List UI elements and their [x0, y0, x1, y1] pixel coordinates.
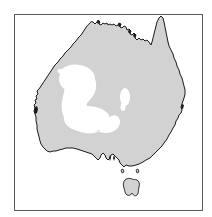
tasmania-shape: [123, 178, 139, 195]
map-frame: [14, 14, 203, 211]
central-east-gap-tip: [121, 103, 126, 111]
bass-strait-island-west-icon: [121, 169, 124, 173]
mainland-shape: [34, 16, 185, 167]
central-east-gap-shape: [120, 88, 130, 106]
figure-root: [0, 0, 212, 217]
spencer-gulf-icon: [109, 155, 115, 161]
mainland-group: [34, 16, 185, 173]
central-west-gap-neck: [63, 83, 87, 119]
australia-map-svg: [15, 15, 201, 209]
tasmania-group: [123, 178, 139, 195]
bass-strait-island-east-icon: [136, 169, 139, 173]
